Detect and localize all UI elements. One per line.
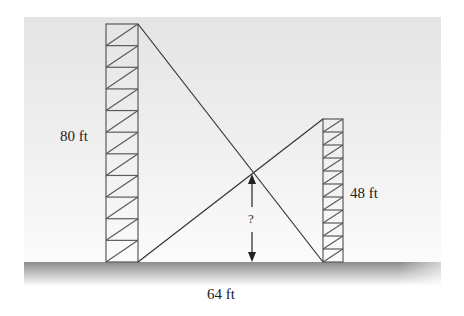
diagram-canvas — [0, 0, 464, 316]
unknown-height-label: ? — [248, 211, 254, 226]
right-tower-height-label: 48 ft — [350, 186, 378, 201]
ground-distance-label: 64 ft — [207, 287, 235, 302]
left-tower-height-label: 80 ft — [60, 129, 88, 144]
tower-diagram: 80 ft 48 ft 64 ft ? — [0, 0, 464, 316]
